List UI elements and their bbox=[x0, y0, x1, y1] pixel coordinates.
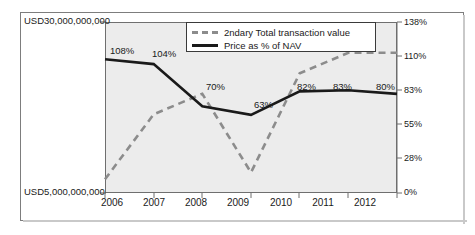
legend-swatch-solid-icon bbox=[192, 44, 218, 47]
chart-screenshot: USD30,000,000,000 USD5,000,000,000 138% … bbox=[0, 0, 475, 235]
data-label-2010: 82% bbox=[297, 81, 316, 92]
data-label-2011: 83% bbox=[333, 81, 352, 92]
legend-item-price-pct-nav: Price as % of NAV bbox=[192, 39, 370, 51]
legend-label-price-pct-nav: Price as % of NAV bbox=[224, 40, 301, 51]
data-label-2009: 63% bbox=[254, 99, 273, 110]
legend-item-transaction-value: 2ndary Total transaction value bbox=[192, 26, 370, 38]
data-label-2006: 108% bbox=[110, 45, 134, 56]
data-label-2007: 104% bbox=[152, 48, 176, 59]
data-label-2008: 70% bbox=[206, 81, 225, 92]
legend-label-transaction-value: 2ndary Total transaction value bbox=[224, 27, 350, 38]
legend-swatch-dashed-icon bbox=[192, 31, 218, 34]
chart-legend: 2ndary Total transaction value Price as … bbox=[186, 22, 376, 52]
series-line-price-pct-nav bbox=[105, 59, 397, 115]
data-label-2012: 80% bbox=[376, 81, 395, 92]
